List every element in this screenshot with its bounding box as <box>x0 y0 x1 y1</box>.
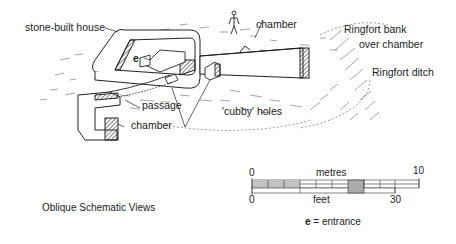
legend-text: = entrance <box>313 216 361 227</box>
scale-bar <box>252 178 419 195</box>
label-chamber-top: chamber <box>256 19 297 30</box>
scale-metres-end: 10 <box>413 166 424 176</box>
legend-key: e <box>305 216 311 227</box>
label-passage: passage <box>142 100 182 111</box>
label-stone-built-house: stone-built house <box>25 22 105 33</box>
figure-caption: Oblique Schematic Views <box>42 203 155 213</box>
person-figure <box>229 11 239 34</box>
legend-entrance: e = entrance <box>305 217 361 227</box>
label-ringfort-bank: Ringfort bank <box>344 24 406 35</box>
label-ringfort-ditch: Ringfort ditch <box>372 67 434 78</box>
chamber-bottom <box>78 92 120 140</box>
label-ringfort-bank-over-chamber: over chamber <box>359 39 423 50</box>
scale-metres-label: metres <box>316 168 347 178</box>
scale-feet-label: feet <box>313 195 330 205</box>
label-entrance-marker: e <box>133 53 139 64</box>
scale-feet-start: 0 <box>249 195 255 205</box>
label-cubby-holes: 'cubby' holes <box>222 106 282 117</box>
scale-feet-end: 30 <box>390 195 401 205</box>
label-chamber-bottom: chamber <box>131 120 172 131</box>
scale-metres-start: 0 <box>249 168 255 178</box>
